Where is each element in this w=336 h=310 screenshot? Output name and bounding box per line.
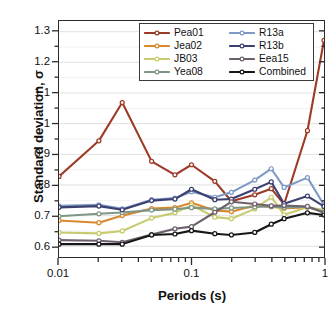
- legend-swatch-icon: [144, 55, 170, 63]
- legend-label: Yea08: [174, 67, 203, 77]
- legend-swatch-icon: [229, 42, 255, 50]
- legend-swatch-icon: [229, 68, 255, 76]
- legend-item-pea01[interactable]: Pea01: [144, 27, 224, 39]
- y-tick-label: 0.9: [6, 147, 50, 159]
- legend-item-jb03[interactable]: JB03: [144, 53, 224, 65]
- legend-item-eea15[interactable]: Eea15: [229, 53, 309, 65]
- legend-label: Jea02: [174, 41, 202, 51]
- x-tick-label: 0.1: [167, 267, 217, 279]
- y-tick-label: 1.1: [6, 86, 50, 98]
- legend-swatch-icon: [144, 68, 170, 76]
- legend-column-left: Pea01Jea02JB03Yea08: [144, 27, 224, 78]
- legend-swatch-icon: [144, 29, 170, 37]
- x-axis-title: Periods (s): [58, 288, 326, 303]
- y-tick-label: 1: [6, 117, 50, 129]
- legend-item-yea08[interactable]: Yea08: [144, 66, 224, 78]
- legend-swatch-icon: [229, 55, 255, 63]
- y-tick-label: 0.7: [6, 209, 50, 221]
- y-tick-label: 1.2: [6, 55, 50, 67]
- x-tick-label: 1: [300, 267, 336, 279]
- y-tick-label: 0.6: [6, 240, 50, 252]
- legend-swatch-icon: [144, 42, 170, 50]
- chart-figure: Standard deviation, σ Periods (s) 0.60.7…: [0, 0, 336, 310]
- legend-label: R13b: [259, 41, 284, 51]
- x-tick-label: 0.01: [33, 267, 83, 279]
- chart-legend: Pea01Jea02JB03Yea08 R13aR13bEea15Combine…: [139, 23, 314, 81]
- legend-item-r13a[interactable]: R13a: [229, 27, 309, 39]
- legend-label: Pea01: [174, 28, 204, 38]
- y-tick-label: 1.3: [6, 24, 50, 36]
- legend-label: R13a: [259, 28, 284, 38]
- legend-item-r13b[interactable]: R13b: [229, 40, 309, 52]
- legend-item-jea02[interactable]: Jea02: [144, 40, 224, 52]
- y-tick-label: 0.8: [6, 178, 50, 190]
- legend-label: Eea15: [259, 54, 289, 64]
- legend-label: Combined: [259, 67, 306, 77]
- legend-column-right: R13aR13bEea15Combined: [229, 27, 309, 78]
- legend-label: JB03: [174, 54, 197, 64]
- legend-swatch-icon: [229, 29, 255, 37]
- legend-item-combined[interactable]: Combined: [229, 66, 309, 78]
